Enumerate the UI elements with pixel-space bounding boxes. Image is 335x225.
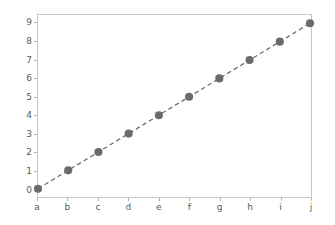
data-series-svg [38,15,311,197]
y-tick-label: 0 [26,185,32,194]
x-tick-mark [128,198,129,201]
y-tick-label: 4 [26,111,32,120]
y-tick-label: 9 [26,18,32,27]
x-tick-label: h [247,203,253,212]
y-tick-label: 1 [26,167,32,176]
x-axis-tick-marks [37,198,312,202]
data-point [215,74,223,82]
x-tick-mark [311,198,312,201]
x-tick-mark [98,198,99,201]
x-tick-mark [37,198,38,201]
x-tick-label: d [125,203,131,212]
series-line [38,23,310,188]
data-point [34,185,42,193]
data-point [276,38,284,46]
x-tick-label: f [188,203,191,212]
x-tick-label: i [279,203,282,212]
chart-figure: 0123456789 abcdefghij [0,0,335,225]
y-tick-label: 2 [26,148,32,157]
x-tick-mark [250,198,251,201]
y-tick-label: 3 [26,129,32,138]
x-tick-label: j [310,203,313,212]
y-tick-label: 7 [26,55,32,64]
plot-surface [38,15,311,197]
data-point [125,130,133,138]
x-tick-mark [189,198,190,201]
data-point [64,166,72,174]
x-tick-label: a [34,203,40,212]
data-point [155,111,163,119]
y-tick-label: 8 [26,36,32,45]
series-markers [34,19,314,193]
y-tick-label: 5 [26,92,32,101]
x-tick-mark [67,198,68,201]
x-axis-tick-labels: abcdefghij [37,203,312,217]
y-axis-tick-labels: 0123456789 [18,14,32,198]
data-point [245,56,253,64]
data-point [94,148,102,156]
x-tick-label: e [156,203,162,212]
x-tick-mark [281,198,282,201]
x-tick-label: b [65,203,71,212]
y-tick-label: 6 [26,74,32,83]
data-point [306,19,314,27]
x-tick-label: g [217,203,223,212]
data-point [185,93,193,101]
x-tick-mark [220,198,221,201]
x-tick-label: c [95,203,100,212]
plot-axes-frame [37,14,312,198]
x-tick-mark [159,198,160,201]
